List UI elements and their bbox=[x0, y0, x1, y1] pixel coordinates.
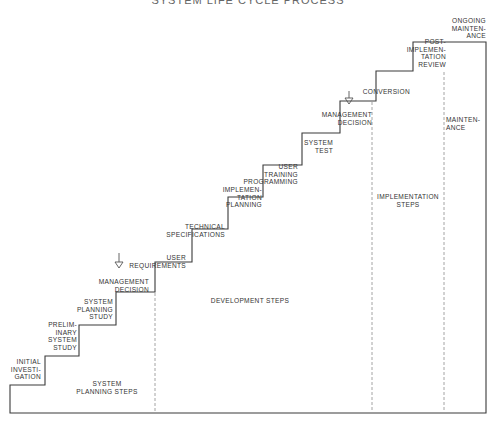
step-preliminary-system-study: PRELIM- INARY SYSTEM STUDY bbox=[48, 321, 77, 351]
phase-system-planning-steps: SYSTEM PLANNING STEPS bbox=[62, 380, 152, 395]
step-initial-investigation: INITIAL INVESTI- GATION bbox=[11, 358, 41, 381]
step-ongoing-maintenance: ONGOING MAINTEN- ANCE bbox=[452, 17, 486, 40]
step-system-test: SYSTEM TEST bbox=[304, 139, 333, 154]
step-management-decision-1: MANAGEMENT DECISION bbox=[99, 278, 149, 293]
step-technical-specifications: TECHNICAL SPECIFICATIONS bbox=[166, 223, 225, 238]
phase-development-steps: DEVELOPMENT STEPS bbox=[190, 297, 310, 305]
decision-arrow-icon bbox=[115, 253, 123, 268]
decision-arrow-icon bbox=[345, 91, 353, 104]
staircase-outline bbox=[10, 42, 486, 413]
step-implementation-planning: IMPLEMEN- TATION PLANNING bbox=[223, 186, 262, 209]
step-user-requirements: USER REQUIREMENTS bbox=[129, 254, 186, 269]
phase-maintenance: MAINTEN- ANCE bbox=[446, 116, 480, 131]
step-post-implementation-review: POST- IMPLEMEN- TATION REVIEW bbox=[407, 38, 446, 68]
step-system-planning-study: SYSTEM PLANNING STUDY bbox=[77, 298, 113, 321]
phase-implementation-steps: IMPLEMENTATION STEPS bbox=[372, 193, 444, 208]
step-conversion: CONVERSION bbox=[363, 88, 410, 96]
staircase-diagram: SYSTEM LIFE CYCLE PROCESS INITIAL INVEST… bbox=[0, 0, 496, 427]
step-management-decision-2: MANAGEMENT DECISION bbox=[322, 111, 372, 126]
step-user-training-programming: USER TRAINING PROGRAMMING bbox=[243, 163, 298, 186]
